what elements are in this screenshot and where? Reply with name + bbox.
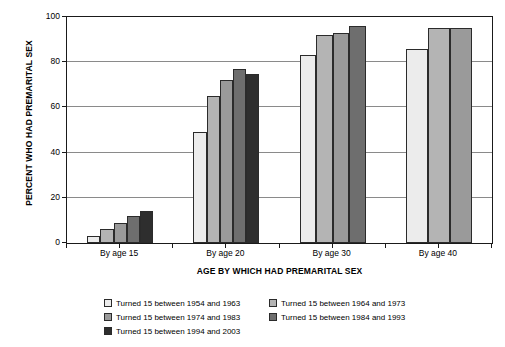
x-tick-mark [332, 243, 333, 248]
bar [349, 26, 365, 243]
x-boundary-tick-mark [491, 243, 492, 248]
bar [140, 211, 153, 243]
bar [300, 55, 316, 243]
x-tick-mark [438, 243, 439, 248]
legend-item: Turned 15 between 1974 and 1983 [104, 313, 269, 322]
y-axis-title: PERCENT WHO HAD PREMARITAL SEX [24, 0, 34, 248]
x-boundary-tick-mark [385, 243, 386, 248]
y-tick-mark [62, 197, 66, 198]
y-tick-label: 80 [32, 56, 66, 66]
x-tick-label: By age 15 [100, 248, 138, 258]
chart-figure: PERCENT WHO HAD PREMARITAL SEX 020406080… [0, 0, 505, 347]
bar [246, 74, 259, 244]
y-tick-mark [62, 106, 66, 107]
legend-swatch-icon [104, 327, 112, 335]
bar [316, 35, 332, 243]
bar [193, 132, 206, 243]
legend-label: Turned 15 between 1994 and 2003 [116, 327, 240, 336]
legend-label: Turned 15 between 1964 and 1973 [281, 299, 405, 308]
legend-swatch-icon [104, 299, 112, 307]
x-boundary-tick-mark [66, 243, 67, 248]
x-tick-label: By age 40 [419, 248, 457, 258]
bar [127, 216, 140, 243]
bar [87, 236, 100, 243]
legend-item: Turned 15 between 1994 and 2003 [104, 327, 269, 336]
y-tick-label: 20 [32, 192, 66, 202]
legend-item: Turned 15 between 1964 and 1973 [269, 299, 434, 308]
bar [100, 229, 113, 243]
legend-swatch-icon [269, 299, 277, 307]
y-tick-label: 100 [32, 11, 66, 21]
x-axis-title: AGE BY WHICH HAD PREMARITAL SEX [66, 266, 493, 276]
legend-item: Turned 15 between 1984 and 1993 [269, 313, 434, 322]
x-boundary-tick-mark [172, 243, 173, 248]
y-tick-mark [62, 152, 66, 153]
y-tick-mark [62, 61, 66, 62]
x-tick-label: By age 30 [312, 248, 350, 258]
x-tick-mark [119, 243, 120, 248]
x-boundary-tick-mark [279, 243, 280, 248]
bar [207, 96, 220, 243]
legend-label: Turned 15 between 1954 and 1963 [116, 299, 240, 308]
legend-swatch-icon [269, 313, 277, 321]
legend-label: Turned 15 between 1974 and 1983 [116, 313, 240, 322]
bar [233, 69, 246, 243]
y-tick-label: 40 [32, 147, 66, 157]
chart-legend: Turned 15 between 1954 and 1963Turned 15… [104, 296, 434, 338]
bar [333, 33, 349, 243]
plot-area [66, 16, 493, 244]
y-tick-label: 0 [32, 237, 66, 247]
x-axis-ticks: By age 15By age 20By age 30By age 40 [66, 248, 493, 264]
x-tick-label: By age 20 [206, 248, 244, 258]
bar [450, 28, 472, 243]
legend-swatch-icon [104, 313, 112, 321]
y-tick-mark [62, 16, 66, 17]
x-tick-mark [225, 243, 226, 248]
bar [114, 223, 127, 243]
legend-label: Turned 15 between 1984 and 1993 [281, 313, 405, 322]
bar [220, 80, 233, 243]
legend-item: Turned 15 between 1954 and 1963 [104, 299, 269, 308]
bar [428, 28, 450, 243]
bar [406, 49, 428, 243]
y-tick-label: 60 [32, 101, 66, 111]
bars-layer [67, 17, 492, 243]
